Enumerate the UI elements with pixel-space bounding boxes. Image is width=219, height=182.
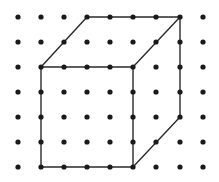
- grid-dot: [130, 39, 135, 44]
- grid-dot: [15, 164, 20, 169]
- grid-dot: [177, 14, 182, 19]
- grid-dot: [38, 64, 43, 69]
- grid-dot: [15, 14, 20, 19]
- grid-dot: [130, 164, 135, 169]
- grid-dot: [107, 89, 112, 94]
- grid-dot: [200, 64, 205, 69]
- grid-dot: [200, 39, 205, 44]
- grid-dot: [130, 64, 135, 69]
- grid-dot: [84, 164, 89, 169]
- grid-dot: [38, 89, 43, 94]
- grid-dot: [177, 89, 182, 94]
- grid-dot: [107, 14, 112, 19]
- grid-dot: [107, 164, 112, 169]
- grid-dot: [153, 39, 158, 44]
- grid-dot: [84, 114, 89, 119]
- grid-dot: [107, 114, 112, 119]
- grid-dot: [84, 89, 89, 94]
- grid-dot: [177, 114, 182, 119]
- grid-dot: [153, 14, 158, 19]
- grid-dot: [38, 139, 43, 144]
- grid-dot: [15, 114, 20, 119]
- grid-dot: [61, 89, 66, 94]
- grid-dot: [61, 39, 66, 44]
- grid-dot: [84, 14, 89, 19]
- grid-dot: [61, 64, 66, 69]
- grid-dot: [130, 14, 135, 19]
- grid-dot: [200, 89, 205, 94]
- grid-dot: [107, 39, 112, 44]
- grid-dot: [130, 139, 135, 144]
- grid-dot: [15, 39, 20, 44]
- grid-dot: [130, 89, 135, 94]
- grid-dot: [153, 64, 158, 69]
- grid-dot: [177, 39, 182, 44]
- cube-dot-grid-diagram: [0, 0, 219, 182]
- grid-dot: [15, 64, 20, 69]
- grid-dot: [200, 14, 205, 19]
- grid-dot: [38, 14, 43, 19]
- grid-dot: [15, 89, 20, 94]
- grid-dot: [107, 139, 112, 144]
- grid-dot: [200, 139, 205, 144]
- grid-dot: [153, 89, 158, 94]
- grid-dot: [38, 114, 43, 119]
- grid-dot: [153, 164, 158, 169]
- grid-dot: [61, 164, 66, 169]
- grid-dot: [107, 64, 112, 69]
- grid-dot: [177, 164, 182, 169]
- grid-dot: [200, 164, 205, 169]
- grid-dot: [61, 139, 66, 144]
- grid-dot: [84, 139, 89, 144]
- grid-dot: [153, 139, 158, 144]
- grid-dot: [61, 114, 66, 119]
- grid-dot: [153, 114, 158, 119]
- grid-dot: [177, 64, 182, 69]
- grid-dot: [15, 139, 20, 144]
- grid-dot: [38, 164, 43, 169]
- dot-grid: [15, 14, 205, 169]
- grid-dot: [84, 39, 89, 44]
- grid-dot: [177, 139, 182, 144]
- grid-dot: [200, 114, 205, 119]
- grid-dot: [130, 114, 135, 119]
- grid-dot: [61, 14, 66, 19]
- grid-dot: [84, 64, 89, 69]
- grid-dot: [38, 39, 43, 44]
